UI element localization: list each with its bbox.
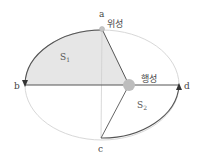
label-a: a [99, 9, 105, 19]
planet-label: 행성 [141, 73, 157, 84]
label-b: b [14, 81, 20, 91]
label-c: c [98, 144, 103, 154]
orbit-arc-c-to-d [101, 86, 179, 138]
satellite-label: 위성 [107, 19, 123, 29]
shaded-area-s1 [25, 29, 129, 85]
radius-to-c [101, 85, 129, 138]
satellite-icon [100, 27, 105, 32]
arrow-head-d-icon [176, 83, 182, 90]
planet-icon [123, 79, 135, 91]
kepler-second-law-diagram: a b c d 위성 행성 S1 S2 [0, 0, 197, 157]
area-label-s2: S2 [137, 100, 147, 111]
label-d: d [184, 81, 190, 91]
